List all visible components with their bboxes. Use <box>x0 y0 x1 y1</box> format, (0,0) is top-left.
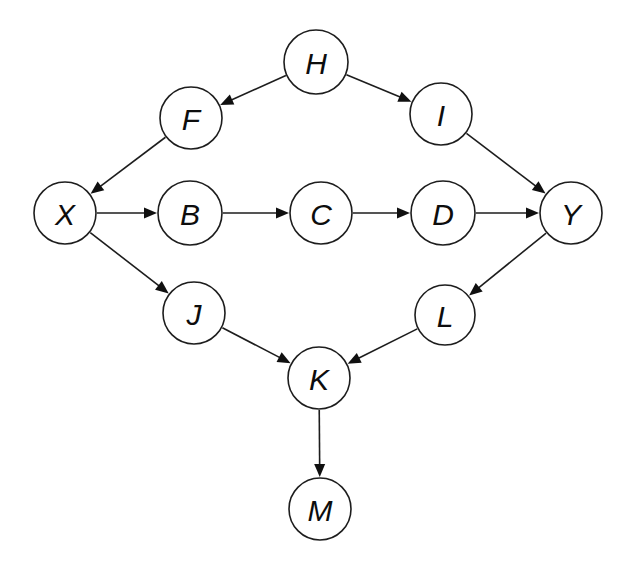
node-label: Y <box>561 198 583 231</box>
node-label: J <box>186 298 203 331</box>
node-label: C <box>310 198 332 231</box>
node-label: H <box>305 47 327 80</box>
node-label: D <box>432 198 454 231</box>
node-label: X <box>54 198 76 231</box>
node-j[interactable]: J <box>163 282 225 344</box>
node-h[interactable]: H <box>284 30 348 94</box>
node-d[interactable]: D <box>411 181 475 245</box>
node-f[interactable]: F <box>160 87 222 149</box>
node-label: I <box>437 99 445 132</box>
node-i[interactable]: I <box>410 83 472 145</box>
node-label: B <box>180 198 200 231</box>
node-label: K <box>309 363 331 396</box>
node-l[interactable]: L <box>415 285 475 345</box>
node-k[interactable]: K <box>288 347 350 409</box>
node-label: M <box>308 494 333 527</box>
node-label: L <box>437 300 454 333</box>
graph-diagram: HFIXBCDYJLKM <box>0 0 630 561</box>
node-y[interactable]: Y <box>540 182 602 244</box>
node-c[interactable]: C <box>290 182 352 244</box>
node-m[interactable]: M <box>289 478 351 540</box>
node-b[interactable]: B <box>158 181 222 245</box>
node-label: F <box>182 103 202 136</box>
node-x[interactable]: X <box>34 182 96 244</box>
